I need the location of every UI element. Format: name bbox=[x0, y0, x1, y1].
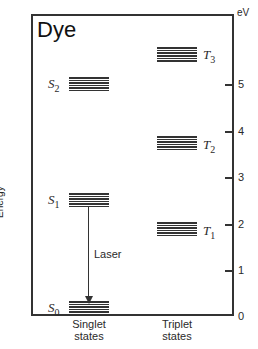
axis-unit: eV bbox=[237, 7, 249, 18]
level-t3 bbox=[157, 47, 197, 62]
level-s2 bbox=[69, 77, 109, 91]
energy-axis-label: Energy bbox=[0, 186, 5, 218]
level-t2 bbox=[157, 136, 197, 150]
frame-top bbox=[31, 14, 234, 16]
label-t2: T2 bbox=[203, 137, 215, 155]
tick-5 bbox=[225, 84, 233, 86]
frame-bottom bbox=[31, 314, 234, 316]
tick-2 bbox=[225, 224, 233, 226]
label-s0: S0 bbox=[48, 300, 60, 318]
diagram-title: Dye bbox=[37, 17, 76, 43]
singlet-states-label: Singlet states bbox=[64, 318, 114, 342]
label-t1: T1 bbox=[203, 223, 215, 241]
tick-label-4: 4 bbox=[238, 126, 244, 137]
frame-left bbox=[31, 14, 33, 316]
tick-label-2: 2 bbox=[238, 219, 244, 230]
label-s2: S2 bbox=[48, 76, 60, 94]
tick-1 bbox=[225, 270, 233, 272]
tick-label-0: 0 bbox=[238, 311, 244, 322]
laser-arrow-line bbox=[88, 207, 89, 301]
arrow-down-icon bbox=[85, 296, 93, 304]
tick-4 bbox=[225, 131, 233, 133]
level-t1 bbox=[157, 222, 197, 236]
level-s1 bbox=[69, 193, 109, 207]
label-s1: S1 bbox=[48, 192, 60, 210]
triplet-states-label: Triplet states bbox=[152, 318, 202, 342]
tick-3 bbox=[225, 177, 233, 179]
laser-label: Laser bbox=[94, 248, 122, 260]
tick-label-3: 3 bbox=[238, 172, 244, 183]
tick-label-1: 1 bbox=[238, 265, 244, 276]
label-t3: T3 bbox=[203, 47, 215, 65]
tick-label-5: 5 bbox=[238, 79, 244, 90]
